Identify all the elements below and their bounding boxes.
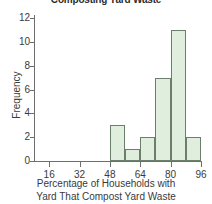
y-tick-label: 10 — [19, 35, 30, 48]
histogram-bar — [140, 137, 155, 161]
x-tick-mark — [80, 162, 81, 167]
x-axis-label-line-1: Percentage of Households with — [0, 178, 212, 191]
y-tick-label: 8 — [24, 59, 30, 72]
y-tick-label: 0 — [24, 154, 30, 167]
histogram-bar — [125, 149, 140, 161]
y-axis-label: Frequency — [0, 0, 10, 50]
chart-title: Composting Yard Waste — [0, 0, 212, 5]
y-tick-mark — [30, 137, 34, 138]
x-tick-mark — [201, 162, 202, 167]
y-tick-label: 4 — [24, 106, 30, 119]
histogram-bar — [110, 125, 125, 161]
y-tick-mark — [30, 113, 34, 114]
x-tick-mark — [171, 162, 172, 167]
x-tick-mark — [140, 162, 141, 167]
x-axis-line — [34, 161, 202, 162]
histogram-bar — [155, 78, 170, 161]
y-tick-label: 6 — [24, 83, 30, 96]
histogram-bar — [186, 137, 201, 161]
y-tick-mark — [30, 66, 34, 67]
x-axis-label: Percentage of Households with Yard That … — [0, 178, 212, 203]
histogram-bar — [171, 30, 186, 161]
y-axis-label-text: Frequency — [11, 50, 22, 140]
x-tick-mark — [49, 162, 50, 167]
y-tick-label: 2 — [24, 130, 30, 143]
y-tick-mark — [30, 90, 34, 91]
y-tick-mark — [30, 18, 34, 19]
y-tick-mark — [30, 42, 34, 43]
x-axis-label-line-2: Yard That Compost Yard Waste — [0, 191, 212, 204]
y-tick-label: 12 — [19, 11, 30, 24]
plot-area: 024681012 — [34, 18, 201, 161]
histogram-figure: Composting Yard Waste Frequency 02468101… — [0, 0, 212, 203]
y-tick-mark — [30, 161, 34, 162]
x-tick-mark — [110, 162, 111, 167]
